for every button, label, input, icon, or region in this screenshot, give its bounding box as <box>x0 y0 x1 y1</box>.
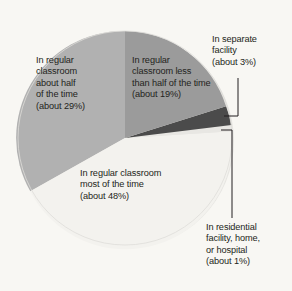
slice-label-about-half-of-time: In regular classroom about half of the t… <box>36 55 122 112</box>
pie-chart-figure: In regular classroom about half of the t… <box>0 0 292 291</box>
slice-label-residential-facility: In residential facility, home, or hospit… <box>206 222 292 268</box>
slice-label-separate-facility: In separate facility (about 3%) <box>212 34 292 68</box>
slice-label-most-of-time: In regular classroom most of the time (a… <box>80 168 192 202</box>
